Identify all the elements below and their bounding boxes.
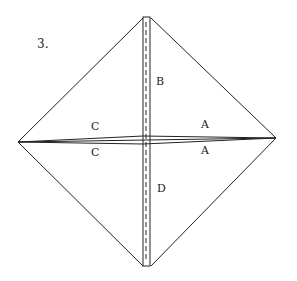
label-a-lower: A <box>201 144 209 157</box>
label-c-upper: C <box>91 120 99 133</box>
label-a-upper: A <box>201 118 209 131</box>
label-b: B <box>156 75 164 88</box>
label-c-lower: C <box>91 146 99 159</box>
label-d: D <box>157 182 166 195</box>
step-number: 3. <box>37 37 48 51</box>
